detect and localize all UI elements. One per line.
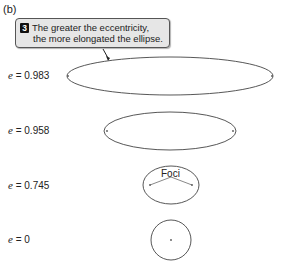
eccentricity-label-0: e = 0 [8,233,30,245]
focus-point [232,130,234,132]
focus-point [271,75,273,77]
ellipse-e-0958 [104,112,236,150]
foci-label: Foci [161,168,180,179]
circle-e-0 [151,220,191,260]
eccentricity-label-0745: e = 0.745 [8,179,49,191]
ellipse-e-0983 [67,57,273,95]
eccentricity-label-0958: e = 0.958 [8,124,49,136]
eccentricity-label-0983: e = 0.983 [8,69,49,81]
focus-point [67,75,69,77]
focus-point [106,130,108,132]
center-focus-point [170,239,172,241]
